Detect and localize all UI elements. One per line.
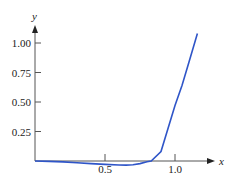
axes: y x [31,10,224,167]
y-ticks: 0.250.500.751.00 [12,37,41,138]
y-axis-arrow-icon [32,25,38,33]
y-tick-label: 0.50 [12,96,32,108]
y-tick-label: 1.00 [12,37,32,49]
chart: y x 0.250.500.751.00 0.51.0 [0,0,232,183]
y-tick-label: 0.75 [12,67,32,79]
x-axis-arrow-icon [207,158,215,164]
y-tick-label: 0.25 [12,126,32,138]
y-axis-label: y [31,10,37,22]
x-axis-label: x [218,155,224,167]
x-tick-label: 1.0 [168,163,182,175]
data-curve [35,34,197,166]
